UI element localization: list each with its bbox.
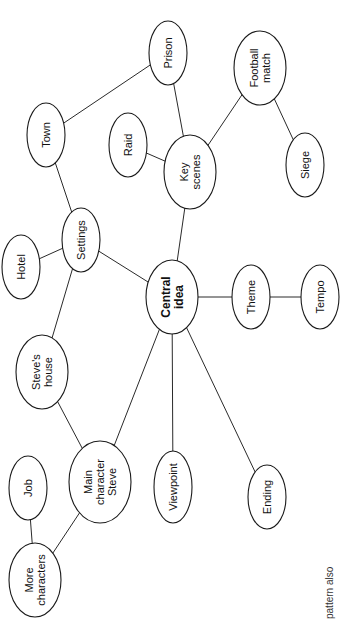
node-key-scenes: Keyscenes <box>164 135 216 209</box>
mind-map-diagram: CentralideaKeyscenesPrisonRaidFootballma… <box>0 0 340 619</box>
node-central: Centralidea <box>146 260 198 334</box>
node-label: Town <box>40 122 52 148</box>
node-more-characters: Morecharacters <box>9 543 61 617</box>
node-theme: Theme <box>232 265 270 329</box>
node-label: Steve'shouse <box>30 354 54 390</box>
node-label: Job <box>22 479 34 497</box>
mind-map-nodes: CentralideaKeyscenesPrisonRaidFootballma… <box>2 21 339 617</box>
node-main-character: MaincharacterSteve <box>69 441 131 523</box>
node-label: Footballmatch <box>248 48 272 87</box>
node-label: Prison <box>162 37 174 68</box>
node-label: Tempo <box>314 280 326 313</box>
node-raid: Raid <box>109 113 147 177</box>
node-label: Hotel <box>15 254 27 280</box>
edge-town-to-prison <box>46 53 168 135</box>
node-settings: Settings <box>62 208 100 272</box>
node-label: Siege <box>299 151 311 179</box>
node-viewpoint: Viewpoint <box>154 451 192 523</box>
node-label: Settings <box>75 220 87 260</box>
node-siege: Siege <box>286 133 324 197</box>
cut-off-caption: pattern also <box>324 566 335 619</box>
node-tempo: Tempo <box>301 265 339 329</box>
node-hotel: Hotel <box>2 235 40 299</box>
node-town: Town <box>27 103 65 167</box>
node-label: Viewpoint <box>167 463 179 511</box>
node-label: Ending <box>261 480 273 514</box>
node-label: Theme <box>245 280 257 314</box>
node-label: Raid <box>122 134 134 157</box>
node-job: Job <box>9 456 47 520</box>
node-prison: Prison <box>149 21 187 85</box>
node-football-match: Footballmatch <box>234 31 286 105</box>
node-steves-house: Steve'shouse <box>16 335 68 409</box>
node-ending: Ending <box>248 465 286 529</box>
